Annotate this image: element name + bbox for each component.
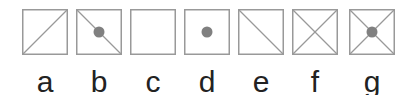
panel-c: c <box>130 9 176 95</box>
square-icon <box>130 9 176 55</box>
panel-label: d <box>184 65 230 95</box>
panel-f: f <box>292 9 338 95</box>
square-icon <box>76 9 122 55</box>
square-icon <box>238 9 284 55</box>
square-icon <box>22 9 68 55</box>
panel-b: b <box>76 9 122 95</box>
panel-label: f <box>292 65 338 95</box>
panel-label: b <box>76 65 122 95</box>
panel-d: d <box>184 9 230 95</box>
square-icon <box>292 9 338 55</box>
square-icon <box>184 9 230 55</box>
panel-label: g <box>349 65 395 95</box>
panel-e: e <box>238 9 284 95</box>
panel-label: a <box>22 65 68 95</box>
square-icon <box>349 9 395 55</box>
panel-label: e <box>238 65 284 95</box>
panel-a: a <box>22 9 68 95</box>
panel-g: g <box>349 9 395 95</box>
panel-label: c <box>130 65 176 95</box>
